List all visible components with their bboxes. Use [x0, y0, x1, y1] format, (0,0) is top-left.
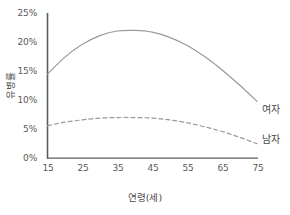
series-line-female — [48, 30, 258, 101]
x-tick-label: 55 — [176, 163, 200, 173]
y-tick-label: 5% — [7, 124, 37, 134]
x-tick-label: 25 — [71, 163, 95, 173]
series-label-male: 남자 — [262, 131, 280, 146]
x-tick-label: 45 — [141, 163, 165, 173]
x-axis-title: 연령(세) — [110, 190, 180, 204]
x-tick-label: 65 — [211, 163, 235, 173]
y-tick-label: 0% — [7, 153, 37, 163]
y-axis-title: 유병률 — [3, 63, 17, 107]
series-line-male — [48, 117, 258, 143]
series-label-female: 여자 — [262, 101, 280, 116]
x-tick-label: 75 — [246, 163, 270, 173]
x-tick-label: 15 — [36, 163, 60, 173]
chart-container: 25% 20% 15% 10% 5% 0% 15 25 35 45 55 65 … — [0, 0, 290, 215]
y-tick-label: 25% — [7, 8, 37, 18]
x-tick-label: 35 — [106, 163, 130, 173]
y-tick-label: 20% — [7, 37, 37, 47]
line-chart-plot — [0, 0, 290, 215]
